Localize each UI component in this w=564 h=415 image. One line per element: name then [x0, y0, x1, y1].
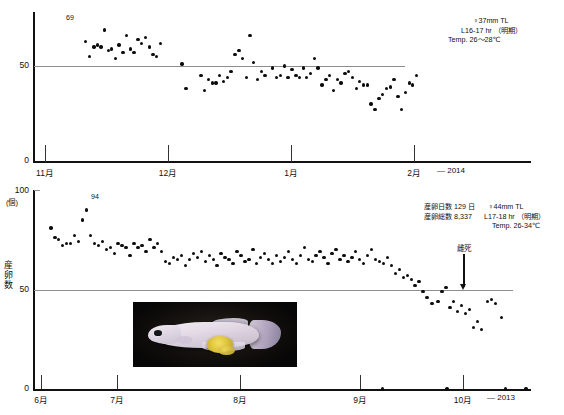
data-point — [330, 252, 333, 255]
data-point — [413, 284, 416, 287]
data-point — [121, 51, 124, 54]
data-point — [382, 262, 385, 265]
data-point — [192, 252, 195, 255]
data-point — [381, 387, 384, 390]
data-point — [113, 252, 116, 255]
top-peak-label: 69 — [66, 14, 74, 21]
data-point — [347, 70, 350, 73]
data-point — [452, 300, 455, 303]
data-point — [328, 74, 331, 77]
data-point — [84, 40, 87, 43]
data-point — [263, 252, 266, 255]
data-point — [445, 387, 448, 390]
data-point — [313, 57, 316, 60]
data-point — [65, 242, 68, 245]
top-xtick-label-0: 11月 — [28, 166, 62, 178]
data-point — [128, 254, 131, 257]
top-xtick-mark-0 — [45, 145, 46, 162]
bottom-xtick-label-1: 7月 — [100, 393, 134, 405]
bottom-note-right-2: Temp. 26-34℃ — [492, 221, 545, 231]
data-point — [120, 244, 123, 247]
data-point — [369, 102, 372, 105]
data-point — [291, 258, 294, 261]
data-point — [311, 260, 314, 263]
data-point — [243, 260, 246, 263]
bottom-xtick-mark-3 — [360, 375, 361, 389]
data-point — [494, 302, 497, 305]
data-point — [196, 256, 199, 259]
top-gridline-50 — [34, 66, 405, 67]
data-point — [279, 260, 282, 263]
data-point — [490, 298, 493, 301]
top-note-line-1: L16-17 hr （明期） — [448, 26, 522, 36]
data-point — [295, 262, 298, 265]
data-point — [110, 47, 113, 50]
top-note-line-0: ♀37mm TL — [448, 16, 522, 26]
data-point — [184, 87, 187, 90]
data-point — [73, 234, 76, 237]
medaka-photo — [133, 302, 297, 367]
bottom-note-left-1: 産卵総数 8,337 — [424, 212, 475, 222]
data-point — [305, 76, 308, 79]
data-point — [99, 45, 102, 48]
data-point — [144, 36, 147, 39]
data-point — [440, 290, 443, 293]
data-point — [298, 76, 301, 79]
data-point — [326, 262, 329, 265]
data-point — [316, 66, 319, 69]
data-point — [223, 256, 226, 259]
bottom-ytick-100: 100 — [2, 185, 29, 195]
data-point — [81, 218, 84, 221]
data-point — [346, 260, 349, 263]
data-point — [263, 74, 266, 77]
data-point — [370, 248, 373, 251]
data-point — [136, 246, 139, 249]
data-point — [472, 326, 475, 329]
data-point — [283, 64, 286, 67]
data-point — [500, 316, 503, 319]
top-x-axis — [33, 161, 531, 163]
top-notes: ♀37mm TL L16-17 hr （明期） Temp. 26～28℃ — [448, 16, 522, 45]
data-point — [378, 260, 381, 263]
data-point — [97, 244, 100, 247]
top-ytick-50: 50 — [8, 60, 29, 70]
data-point — [374, 258, 377, 261]
top-ytick-0: 0 — [8, 155, 29, 165]
data-point — [366, 83, 369, 86]
data-point — [117, 43, 120, 46]
data-point — [385, 87, 388, 90]
data-point — [61, 244, 64, 247]
fish-egg-cluster-secondary — [218, 346, 234, 354]
data-point — [402, 276, 405, 279]
data-point — [290, 68, 293, 71]
data-point — [233, 53, 236, 56]
data-point — [421, 290, 424, 293]
data-point — [251, 248, 254, 251]
bottom-notes-right: ♀44mm TL L17-18 hr （明期） Temp. 26-34℃ — [488, 202, 545, 231]
data-point — [524, 387, 527, 390]
data-point — [211, 81, 214, 84]
top-xtick-label-3: 2月 — [397, 166, 431, 178]
data-point — [214, 81, 217, 84]
data-point — [351, 76, 354, 79]
data-point — [334, 248, 337, 251]
data-point — [362, 262, 365, 265]
data-point — [148, 45, 151, 48]
bottom-note-left-0: 産卵日数 129 日 — [424, 202, 475, 212]
data-point — [322, 256, 325, 259]
data-point — [324, 78, 327, 81]
data-point — [140, 244, 143, 247]
data-point — [129, 47, 132, 50]
data-point — [486, 300, 489, 303]
data-point — [144, 250, 147, 253]
data-point — [136, 38, 139, 41]
bottom-note-right-0: ♀44mm TL — [488, 202, 545, 212]
data-point — [430, 302, 433, 305]
bottom-xtick-label-0: 6月 — [24, 393, 58, 405]
data-point — [245, 76, 248, 79]
data-point — [448, 306, 451, 309]
top-y-axis — [33, 12, 35, 162]
data-point — [415, 74, 418, 77]
data-point — [69, 242, 72, 245]
bottom-notes-left: 産卵日数 129 日 産卵総数 8,337 — [424, 202, 475, 221]
